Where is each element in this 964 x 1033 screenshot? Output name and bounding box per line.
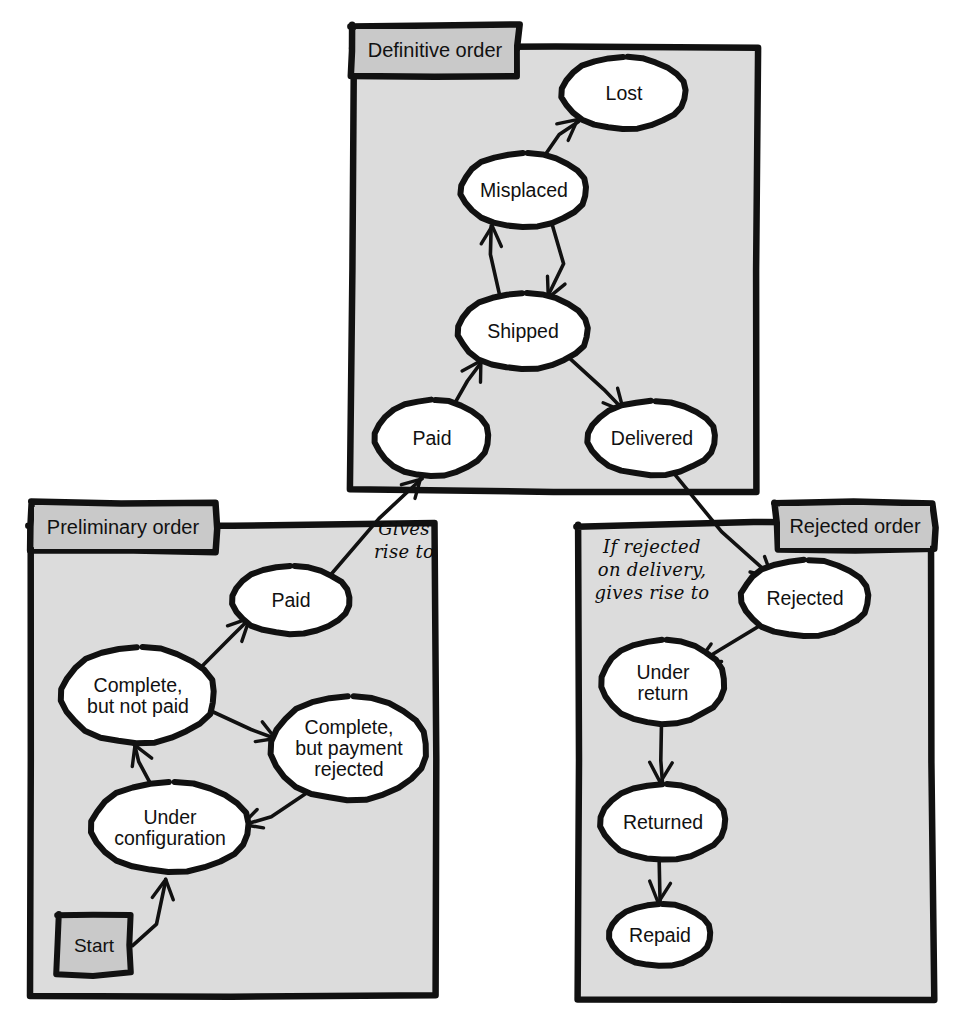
state-node-d-lost[interactable]	[561, 57, 685, 129]
state-node-d-shipped[interactable]	[458, 293, 588, 369]
package-tab-fill-rejected	[780, 506, 930, 548]
start-node-p-start[interactable]	[56, 914, 131, 976]
state-node-r-returned[interactable]	[600, 784, 725, 860]
state-node-p-paid[interactable]	[232, 566, 349, 634]
transition-t-returned-repaid[interactable]	[659, 862, 660, 902]
state-node-r-rejected[interactable]	[741, 560, 869, 636]
transition-t-underreturn-returned[interactable]	[661, 728, 663, 782]
state-node-r-repaid[interactable]	[609, 904, 710, 966]
diagram-canvas: Definitive orderPreliminary orderRejecte…	[0, 0, 964, 1033]
state-node-p-complete-unpaid[interactable]	[61, 647, 214, 743]
state-node-p-complete-rejected[interactable]	[271, 696, 426, 800]
package-tab-fill-preliminary	[34, 507, 212, 549]
diagram-vector-layer	[0, 0, 964, 1033]
state-node-r-under-return[interactable]	[601, 640, 724, 724]
package-tab-fill-definitive	[356, 29, 514, 73]
state-node-d-delivered[interactable]	[587, 401, 715, 476]
state-node-p-under-configuration[interactable]	[91, 782, 249, 872]
state-node-d-paid[interactable]	[375, 400, 489, 477]
state-node-d-misplaced[interactable]	[460, 153, 586, 227]
